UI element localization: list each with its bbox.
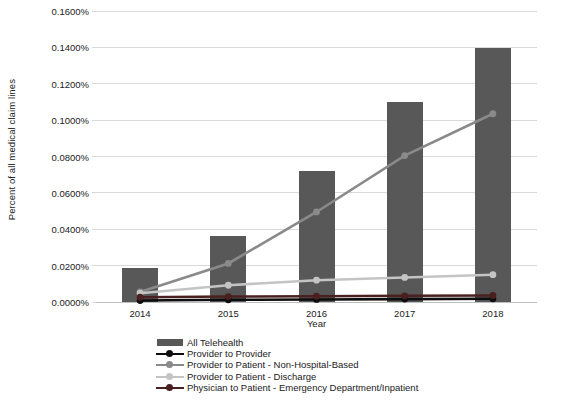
legend-marker-icon xyxy=(166,350,173,357)
line-series xyxy=(137,110,497,295)
y-axis-tick-label: 0.1600% xyxy=(51,6,89,17)
legend-label: Provider to Provider xyxy=(187,348,271,359)
data-point xyxy=(225,293,232,300)
legend-label: All Telehealth xyxy=(187,337,243,348)
y-axis-tick-label: 0.0000% xyxy=(51,297,89,308)
legend-swatch-icon xyxy=(155,348,185,359)
legend-swatch-icon xyxy=(155,382,185,393)
chart-container: Percent of all medical claim lines 0.000… xyxy=(0,0,562,404)
legend-item[interactable]: Physician to Patient - Emergency Departm… xyxy=(155,382,418,393)
legend-marker-icon xyxy=(166,384,173,391)
legend-marker-icon xyxy=(166,361,173,368)
data-point xyxy=(225,282,232,289)
y-axis-title-label: Percent of all medical claim lines xyxy=(6,79,17,220)
legend-marker-icon xyxy=(166,373,173,380)
data-point xyxy=(401,274,408,281)
y-axis-title: Percent of all medical claim lines xyxy=(2,0,20,300)
legend-label: Physician to Patient - Emergency Departm… xyxy=(187,382,418,393)
data-point xyxy=(490,292,497,299)
data-point xyxy=(401,292,408,299)
legend-item[interactable]: Provider to Patient - Non-Hospital-Based xyxy=(155,359,418,370)
data-point xyxy=(401,152,408,159)
legend-label: Provider to Patient - Non-Hospital-Based xyxy=(187,359,359,370)
y-axis-tick-label: 0.1400% xyxy=(51,42,89,53)
y-axis-tick-label: 0.0400% xyxy=(51,224,89,235)
legend-item[interactable]: Provider to Patient - Discharge xyxy=(155,371,418,382)
legend-bar-swatch xyxy=(157,339,183,346)
legend-item[interactable]: Provider to Provider xyxy=(155,348,418,359)
y-axis-tick-label: 0.0200% xyxy=(51,260,89,271)
data-point xyxy=(490,110,497,117)
y-axis-tick-label: 0.1200% xyxy=(51,78,89,89)
legend-swatch-icon xyxy=(155,359,185,370)
y-axis-tick-label: 0.1000% xyxy=(51,115,89,126)
data-point xyxy=(313,277,320,284)
data-point xyxy=(490,271,497,278)
legend-item[interactable]: All Telehealth xyxy=(155,337,418,348)
data-point xyxy=(313,293,320,300)
legend-swatch-icon xyxy=(155,371,185,382)
y-axis-tick-label: 0.0600% xyxy=(51,187,89,198)
data-point xyxy=(225,260,232,267)
data-point xyxy=(313,209,320,216)
line-path xyxy=(140,114,493,292)
legend-label: Provider to Patient - Discharge xyxy=(187,371,316,382)
legend-swatch-icon xyxy=(155,337,185,348)
plot-area: 0.0000%0.0200%0.0400%0.0600%0.0800%0.100… xyxy=(96,11,537,302)
data-point xyxy=(137,294,144,301)
line-series-layer xyxy=(96,11,537,302)
y-axis-tick-label: 0.0800% xyxy=(51,151,89,162)
chart-legend: All TelehealthProvider to ProviderProvid… xyxy=(155,337,418,393)
x-axis-title: Year xyxy=(96,318,537,329)
